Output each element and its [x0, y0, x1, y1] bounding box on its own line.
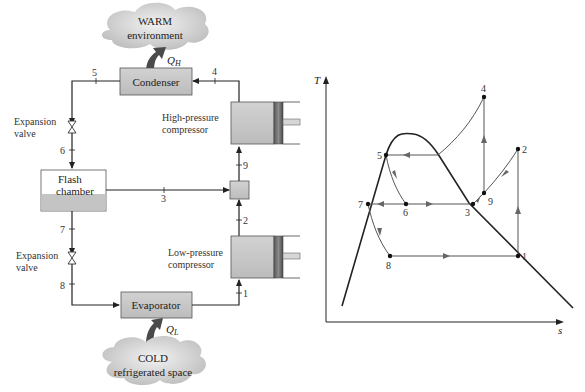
ts-diagram: T s	[314, 74, 573, 336]
ts-label-2: 2	[522, 144, 527, 155]
state-label-4: 4	[212, 66, 217, 77]
diagram-canvas: WARM environment QH Condenser 4 5 Expans…	[0, 0, 585, 392]
environment-label: environment	[127, 29, 183, 41]
ts-label-7: 7	[358, 199, 363, 210]
state-label-2: 2	[243, 215, 248, 226]
t-axis-label: T	[314, 74, 321, 86]
flash-label-1: Flash	[58, 173, 82, 185]
evaporator-label: Evaporator	[132, 299, 181, 311]
hp-compressor-label-2: compressor	[162, 124, 209, 135]
ts-point-6	[404, 202, 408, 206]
lp-compressor-label-2: compressor	[168, 259, 215, 270]
ts-label-1: 1	[522, 251, 527, 262]
ts-point-8	[388, 254, 392, 258]
high-pressure-compressor	[231, 102, 300, 144]
lower-expansion-valve-icon	[68, 252, 76, 264]
ts-label-8: 8	[386, 260, 391, 271]
s-axis-label: s	[558, 324, 562, 336]
ts-point-5	[384, 153, 388, 157]
line-state-8	[72, 264, 119, 305]
state-label-3: 3	[161, 193, 166, 204]
cold-label: COLD	[138, 352, 168, 364]
upper-valve-label-1: Expansion	[14, 116, 56, 127]
state-label-8: 8	[60, 280, 65, 291]
ts-point-7	[366, 202, 370, 206]
ts-point-3	[471, 202, 475, 206]
lp-compressor-label-1: Low-pressure	[168, 247, 224, 258]
state-label-9: 9	[243, 160, 248, 171]
low-pressure-compressor	[231, 236, 300, 278]
upper-expansion-valve-icon	[68, 121, 76, 133]
warm-label: WARM	[138, 15, 172, 27]
line-state-4	[193, 81, 239, 102]
ql-symbol: QL	[166, 323, 179, 337]
lower-valve-label-1: Expansion	[16, 250, 58, 261]
lower-valve-label-2: valve	[16, 262, 38, 273]
ts-point-1	[516, 254, 520, 258]
cold-refrigerated-space-cloud: COLD refrigerated space	[102, 336, 205, 385]
mixing-chamber	[230, 181, 249, 199]
state-label-1: 1	[243, 288, 248, 299]
ts-point-9	[482, 191, 486, 195]
hp-compressor-label-1: High-pressure	[162, 112, 219, 123]
line-state-5	[72, 81, 120, 124]
ts-label-3: 3	[465, 207, 470, 218]
state-label-6: 6	[60, 145, 65, 156]
refrigerated-space-label: refrigerated space	[114, 366, 193, 378]
flash-label-2: chamber	[56, 185, 94, 197]
flash-chamber: Flash chamber	[41, 170, 106, 211]
state-label-7: 7	[60, 224, 65, 235]
qh-symbol: QH	[167, 54, 182, 68]
ts-point-2	[516, 147, 520, 151]
ts-point-4	[482, 95, 486, 99]
ts-label-4: 4	[481, 83, 486, 94]
upper-valve-label-2: valve	[14, 128, 36, 139]
condenser-label: Condenser	[132, 76, 179, 88]
ts-label-5: 5	[377, 150, 382, 161]
ts-label-9: 9	[488, 196, 493, 207]
warm-environment-cloud: WARM environment	[102, 3, 209, 50]
line-state-1	[192, 280, 239, 305]
ts-label-6: 6	[403, 207, 408, 218]
state-label-5: 5	[92, 67, 97, 78]
